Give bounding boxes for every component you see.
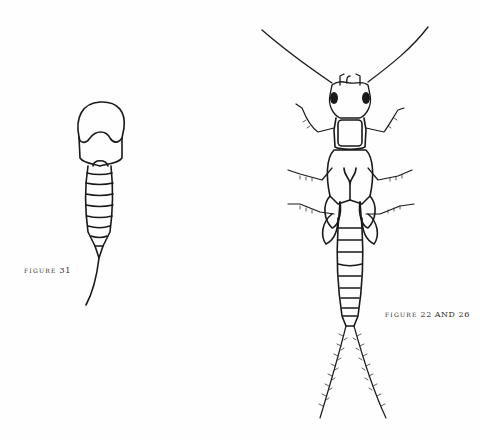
figure-22-and-26-illustration bbox=[0, 0, 480, 440]
figure-31-caption-word: FIGURE bbox=[24, 267, 56, 274]
book-page: FIGURE 31 FIGURE 22 AND 26 bbox=[0, 0, 480, 440]
figure-22-and-26-caption: FIGURE 22 AND 26 bbox=[385, 310, 470, 319]
figure-31-caption-number: 31 bbox=[60, 266, 71, 275]
figure-31-caption: FIGURE 31 bbox=[24, 266, 71, 275]
figure-22-and-26-caption-word: FIGURE bbox=[385, 311, 417, 318]
figure-22-and-26-caption-number: 22 AND 26 bbox=[421, 310, 470, 319]
